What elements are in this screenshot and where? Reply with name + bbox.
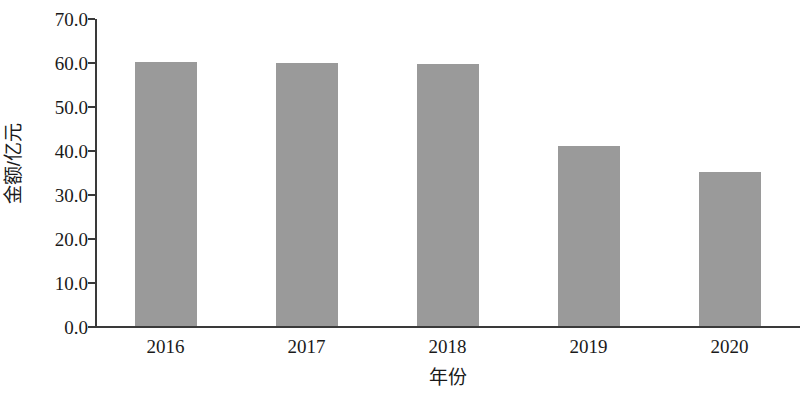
y-axis-tick [88, 62, 95, 64]
x-axis-tick-label: 2019 [529, 336, 649, 359]
y-axis-tick-label: 10.0 [18, 274, 88, 293]
y-axis-tick-label: 50.0 [18, 98, 88, 117]
chart-figure: 金额/亿元 70.060.050.040.030.020.010.00.0 20… [0, 0, 812, 394]
x-axis-line [95, 326, 800, 328]
x-axis-title: 年份 [95, 368, 800, 387]
y-axis-tick-label: 60.0 [18, 54, 88, 73]
plot-area [95, 19, 800, 327]
x-axis-tick-label: 2017 [247, 336, 367, 359]
bar [417, 64, 479, 326]
y-axis-tick-labels: 70.060.050.040.030.020.010.00.0 [12, 19, 88, 327]
y-axis-tick [88, 326, 95, 328]
y-axis-line [95, 19, 97, 327]
y-axis-tick [88, 106, 95, 108]
bar [558, 146, 620, 326]
y-axis-tick-label: 0.0 [18, 318, 88, 337]
x-axis-tick-label: 2020 [670, 336, 790, 359]
y-axis-tick [88, 194, 95, 196]
y-axis-tick-label: 70.0 [18, 10, 88, 29]
y-axis-tick-label: 20.0 [18, 230, 88, 249]
y-axis-tick [88, 238, 95, 240]
y-axis-tick [88, 150, 95, 152]
y-axis-tick [88, 282, 95, 284]
y-axis-tick [88, 18, 95, 20]
bar [135, 62, 197, 326]
x-axis-tick-label: 2016 [106, 336, 226, 359]
bar [276, 63, 338, 326]
y-axis-tick-label: 40.0 [18, 142, 88, 161]
x-axis-tick-labels: 20162017201820192020 [95, 336, 800, 366]
x-axis-tick-label: 2018 [388, 336, 508, 359]
bar [699, 172, 761, 326]
y-axis-tick-label: 30.0 [18, 186, 88, 205]
